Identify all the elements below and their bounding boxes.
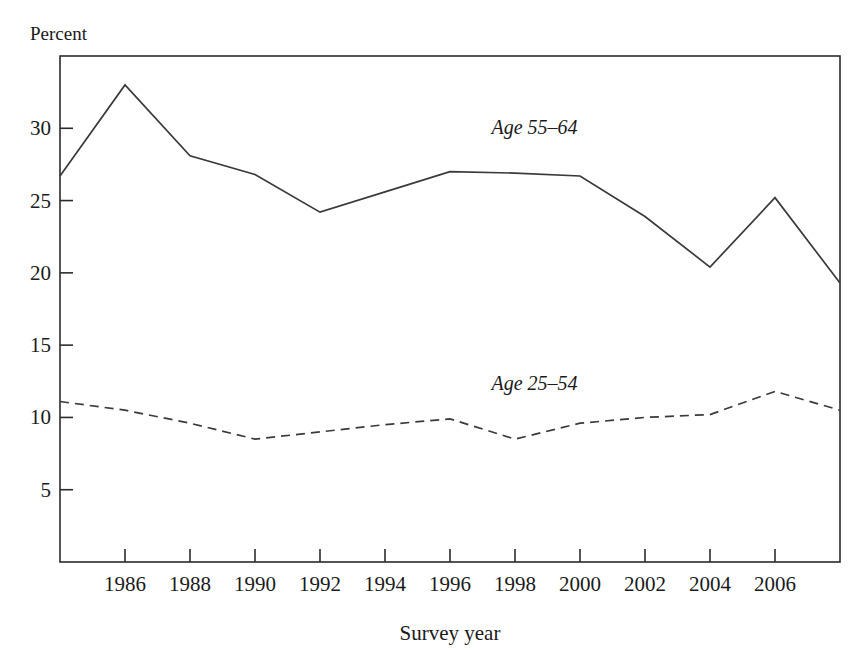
x-tick-label: 2000 (559, 572, 601, 596)
x-tick-label: 2002 (624, 572, 666, 596)
plot-frame (60, 56, 840, 562)
x-axis-ticks: 1986198819901992199419961998200020022004… (104, 549, 796, 596)
series-line-age-55-64 (60, 85, 840, 283)
x-tick-label: 1986 (104, 572, 146, 596)
y-tick-label: 5 (41, 478, 52, 502)
x-tick-label: 2006 (754, 572, 796, 596)
y-axis-unit-label: Percent (30, 23, 88, 44)
series-group (60, 85, 840, 439)
x-tick-label: 1998 (494, 572, 536, 596)
chart-page: Percent 51015202530 19861988199019921994… (0, 0, 862, 654)
y-tick-label: 15 (30, 333, 51, 357)
series-annotations: Age 55–64Age 25–54 (489, 116, 577, 395)
x-tick-label: 2004 (689, 572, 732, 596)
x-tick-label: 1992 (299, 572, 341, 596)
y-tick-label: 10 (30, 405, 51, 429)
y-tick-label: 20 (30, 261, 51, 285)
x-tick-label: 1996 (429, 572, 471, 596)
x-tick-label: 1990 (234, 572, 276, 596)
y-tick-label: 25 (30, 189, 51, 213)
y-axis-ticks: 51015202530 (30, 116, 73, 501)
x-axis-title: Survey year (400, 621, 501, 645)
y-tick-label: 30 (30, 116, 51, 140)
x-tick-label: 1988 (169, 572, 211, 596)
line-chart: Percent 51015202530 19861988199019921994… (0, 0, 862, 654)
series-annotation: Age 25–54 (489, 372, 577, 395)
series-annotation: Age 55–64 (489, 116, 577, 139)
series-line-age-25-54 (60, 391, 840, 439)
x-tick-label: 1994 (364, 572, 407, 596)
